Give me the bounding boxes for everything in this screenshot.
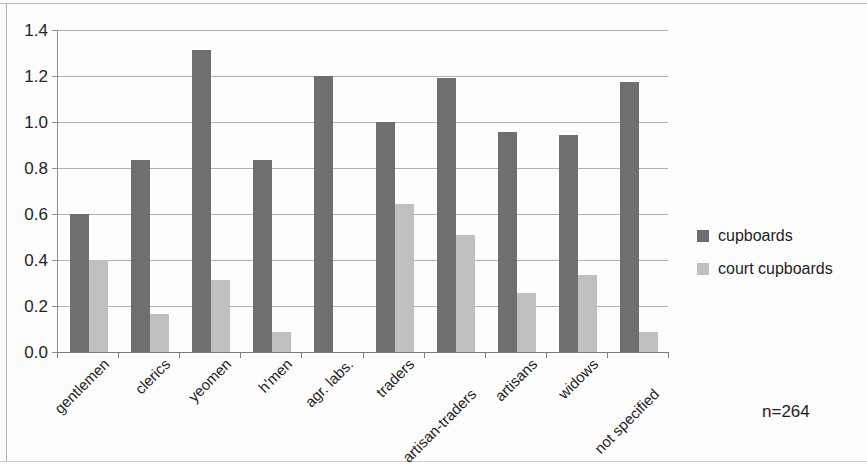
bar-group (559, 30, 620, 352)
plot-area: 1.41.21.00.80.60.40.20.0 (57, 30, 668, 352)
chart-page: 1.41.21.00.80.60.40.20.0 gentlemencleric… (0, 0, 867, 464)
bar (314, 76, 333, 352)
legend-item-court-cupboards: court cupboards (697, 261, 862, 277)
legend-swatch-icon-court-cupboards (697, 263, 709, 275)
bar (517, 293, 536, 352)
bar (578, 275, 597, 352)
y-axis-tick-label: 1.4 (24, 22, 48, 39)
bar (211, 280, 230, 352)
bar (192, 50, 211, 352)
page-border-left (6, 3, 7, 461)
y-axis-tick-label: 0.6 (24, 206, 48, 223)
legend-swatch-icon-cupboards (697, 230, 709, 242)
y-axis-tick-label: 1.0 (24, 114, 48, 131)
y-axis-tick (52, 168, 58, 169)
y-axis-tick (52, 122, 58, 123)
bar (559, 135, 578, 352)
bar (437, 78, 456, 352)
bar-group (620, 30, 681, 352)
x-axis-label: yeomen (185, 356, 233, 404)
x-axis-label: h'men (256, 356, 295, 395)
bar-group (314, 30, 375, 352)
bar (253, 160, 272, 352)
x-axis-label: not specified (591, 386, 661, 456)
y-axis-tick-label: 0.4 (24, 252, 48, 269)
bar (639, 332, 658, 352)
legend-label-cupboards: cupboards (718, 228, 793, 244)
y-axis-tick-label: 0.2 (24, 298, 48, 315)
chart-legend: cupboards court cupboards (697, 228, 862, 294)
y-axis-tick (52, 260, 58, 261)
bar (150, 314, 169, 352)
x-axis-label: widows (555, 356, 600, 401)
bar-group (498, 30, 559, 352)
bar (70, 214, 89, 352)
y-axis-tick-label: 0.0 (24, 344, 48, 361)
x-axis-label: artisans (492, 356, 540, 404)
bar-group (437, 30, 498, 352)
bar-group (253, 30, 314, 352)
bar (272, 332, 291, 352)
bar (376, 122, 395, 352)
bar-group (70, 30, 131, 352)
x-axis-label: artisan-traders (399, 386, 478, 464)
y-axis-tick (52, 214, 58, 215)
sample-size-annotation: n=264 (762, 403, 810, 420)
x-axis-label: traders (373, 356, 417, 400)
x-axis-label: gentlemen (51, 356, 111, 416)
bar (456, 235, 475, 352)
bar (131, 160, 150, 352)
bar (395, 204, 414, 352)
y-axis-tick (52, 306, 58, 307)
page-border-top (0, 3, 867, 4)
y-axis-tick (52, 76, 58, 77)
y-axis-tick (52, 30, 58, 31)
bar (620, 82, 639, 352)
bar-group (376, 30, 437, 352)
bar (89, 260, 108, 352)
y-axis-tick-label: 0.8 (24, 160, 48, 177)
bar-group (131, 30, 192, 352)
y-axis-line (57, 30, 58, 353)
bar-group (192, 30, 253, 352)
x-axis-category-labels: gentlemenclericsyeomenh'menagr. labs.tra… (57, 356, 757, 464)
x-axis-label: clerics (132, 356, 173, 397)
y-axis-tick-label: 1.2 (24, 68, 48, 85)
x-axis-label: agr. labs. (302, 356, 356, 410)
bar (498, 132, 517, 352)
legend-item-cupboards: cupboards (697, 228, 862, 244)
legend-label-court-cupboards: court cupboards (718, 261, 833, 277)
